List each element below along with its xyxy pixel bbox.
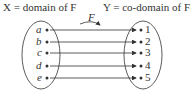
domain-element-c: c (37, 47, 42, 58)
codomain-ellipse (124, 21, 162, 89)
codomain-element-5: 5 (145, 72, 151, 83)
domain-element-d: d (36, 60, 42, 71)
domain-element-e: e (37, 72, 42, 83)
function-curve-arrow (80, 22, 100, 25)
codomain-element-3: 3 (145, 47, 151, 58)
codomain-element-1: 1 (145, 24, 151, 35)
codomain-element-4: 4 (145, 60, 151, 71)
domain-element-a: a (36, 24, 42, 35)
mapping-diagram (0, 0, 193, 95)
